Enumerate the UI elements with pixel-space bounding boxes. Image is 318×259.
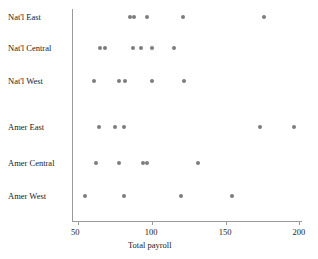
x-tick-label-150: 150 <box>219 228 232 237</box>
data-point <box>131 46 135 50</box>
data-point <box>258 125 262 129</box>
data-point <box>145 161 149 165</box>
data-point <box>172 46 176 50</box>
y-axis-line <box>72 9 73 221</box>
data-point <box>97 125 101 129</box>
category-label-amer-west: Amer West <box>8 192 46 201</box>
data-point <box>150 79 154 83</box>
x-axis-line <box>72 221 302 222</box>
data-point <box>181 15 185 19</box>
category-label-nat-l-west: Nat'l West <box>8 77 43 86</box>
data-point <box>128 15 132 19</box>
x-axis-title: Total payroll <box>128 241 172 250</box>
x-tick-label-100: 100 <box>145 228 158 237</box>
data-point <box>92 79 96 83</box>
data-point <box>230 194 234 198</box>
data-point <box>83 194 87 198</box>
data-point <box>122 194 126 198</box>
data-point <box>292 125 296 129</box>
data-point <box>132 15 136 19</box>
category-label-amer-central: Amer Central <box>8 159 55 168</box>
data-point <box>150 46 154 50</box>
data-point <box>98 46 102 50</box>
data-point <box>262 15 266 19</box>
x-tick-50 <box>78 221 79 225</box>
data-point <box>139 46 143 50</box>
data-point <box>145 15 149 19</box>
data-point <box>94 161 98 165</box>
data-point <box>123 79 127 83</box>
data-point <box>117 161 121 165</box>
scatter-plot: 50100150200 Nat'l EastNat'l CentralNat'l… <box>0 0 318 259</box>
category-label-nat-l-east: Nat'l East <box>8 13 41 22</box>
data-point <box>141 161 145 165</box>
data-point <box>182 79 186 83</box>
data-point <box>103 46 107 50</box>
x-tick-150 <box>226 221 227 225</box>
x-tick-100 <box>152 221 153 225</box>
data-point <box>179 194 183 198</box>
x-tick-label-50: 50 <box>71 228 80 237</box>
category-label-nat-l-central: Nat'l Central <box>8 44 51 53</box>
data-point <box>196 161 200 165</box>
data-point <box>122 125 126 129</box>
data-point <box>113 125 117 129</box>
x-tick-200 <box>299 221 300 225</box>
category-label-amer-east: Amer East <box>8 123 44 132</box>
data-point <box>117 79 121 83</box>
x-tick-label-200: 200 <box>292 228 305 237</box>
